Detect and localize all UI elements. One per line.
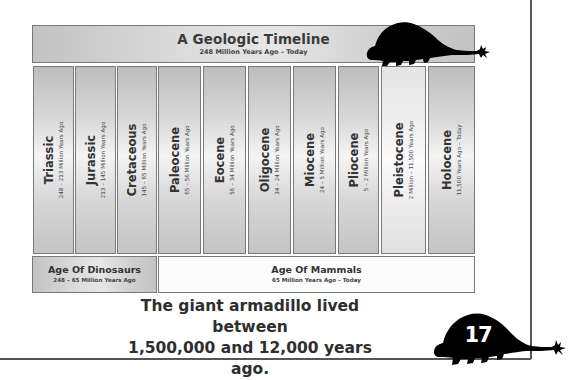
period-holocene: Holocene 11,500 Years Ago – Today [428,66,475,254]
period-range: 11,500 Years Ago – Today [455,124,464,195]
period-cretaceous: Cretaceous 145 – 65 Million Years Ago [117,66,157,254]
period-range: 65 – 56 Million Years Ago [183,125,192,195]
period-name: Holocene [440,124,454,195]
age-of-dinosaurs: Age Of Dinosaurs 248 – 65 Million Years … [32,256,157,293]
period-name: Jurassic [84,122,98,199]
age-range: 248 – 65 Million Years Ago [33,277,156,283]
period-jurassic: Jurassic 213 – 145 Million Years Ago [75,66,116,254]
age-title: Age Of Mammals [159,264,474,275]
age-title: Age Of Dinosaurs [33,264,156,275]
period-triassic: Triassic 248 – 213 Million Years Ago [33,66,74,254]
period-name: Pliocene [347,129,361,191]
period-range: 248 – 213 Million Years Ago [57,122,66,199]
period-range: 34 – 24 Million Years Ago [273,125,282,195]
armadillo-silhouette-icon [364,20,494,68]
caption: The giant armadillo lived between 1,500,… [110,296,390,380]
caption-line-1: The giant armadillo lived between [110,296,390,338]
period-range: 56 – 34 Million Years Ago [228,125,237,195]
period-eocene: Eocene 56 – 34 Million Years Ago [203,66,246,254]
age-range: 65 Million Years Ago – Today [159,277,474,283]
period-oligocene: Oligocene 34 – 24 Million Years Ago [248,66,291,254]
period-pliocene: Pliocene 5 – 2 Million Years Ago [338,66,379,254]
caption-line-2: 1,500,000 and 12,000 years ago. [110,338,390,380]
period-range: 213 – 145 Million Years Ago [99,122,108,199]
period-paleocene: Paleocene 65 – 56 Million Years Ago [158,66,201,254]
period-range: 24 – 5 Million Years Ago [318,127,327,193]
period-range: 2 Million – 11,500 Years Ago [407,121,416,199]
period-name: Eocene [213,125,227,195]
period-name: Oligocene [258,125,272,195]
period-name: Paleocene [168,125,182,195]
period-range: 5 – 2 Million Years Ago [362,129,371,191]
period-name: Pleistocene [392,121,406,199]
period-name: Cretaceous [125,123,139,196]
period-name: Miocene [303,127,317,193]
armadillo-silhouette-icon [432,310,570,370]
period-pleistocene: Pleistocene 2 Million – 11,500 Years Ago [381,66,426,254]
page-border-right [530,0,532,359]
page-number: 17 [463,323,493,347]
period-name: Triassic [42,122,56,199]
period-range: 145 – 65 Million Years Ago [140,123,149,196]
age-of-mammals: Age Of Mammals 65 Million Years Ago – To… [158,256,475,293]
period-miocene: Miocene 24 – 5 Million Years Ago [293,66,336,254]
